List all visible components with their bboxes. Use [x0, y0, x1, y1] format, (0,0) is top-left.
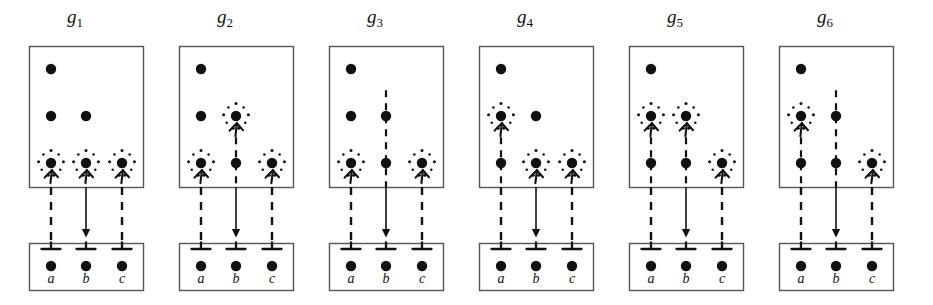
graph-node: [831, 111, 841, 121]
terminal-dot: [81, 261, 91, 271]
node-dot: [681, 158, 691, 168]
node-dot-highlighted: [867, 158, 877, 168]
node-dot-highlighted: [496, 111, 506, 121]
node-dot-highlighted: [231, 111, 241, 121]
panel-g6: g6abc: [750, 0, 900, 305]
node-dot: [381, 111, 391, 121]
graph-node: [796, 64, 806, 74]
up-arrow-icon: [195, 170, 208, 183]
graph-node: [81, 111, 91, 121]
node-dot-highlighted: [646, 111, 656, 121]
terminal-label-a: a: [48, 271, 55, 286]
terminal-label-c: c: [269, 271, 276, 286]
terminal-label-b: b: [383, 271, 390, 286]
up-arrow-icon: [680, 123, 693, 136]
node-dot: [831, 158, 841, 168]
node-dot: [796, 64, 806, 74]
terminal-dot: [496, 261, 506, 271]
node-dot-highlighted: [796, 111, 806, 121]
node-dot: [231, 158, 241, 168]
graph-node: [796, 158, 806, 168]
node-dot-highlighted: [681, 111, 691, 121]
terminal-label-c: c: [119, 271, 126, 286]
terminal-dot: [346, 261, 356, 271]
node-dot: [346, 64, 356, 74]
up-arrow-icon: [795, 123, 808, 136]
terminal-label-b: b: [533, 271, 540, 286]
panel-graphic-g6: abc: [750, 0, 900, 305]
graph-node: [381, 111, 391, 121]
panel-g4: g4abc: [450, 0, 600, 305]
graph-node: [496, 158, 506, 168]
graph-node: [196, 64, 206, 74]
solid-arrow-connector: [832, 187, 840, 238]
panel-graphic-g3: abc: [300, 0, 450, 305]
graph-node: [646, 158, 656, 168]
up-arrow-icon: [266, 170, 279, 183]
terminal-dot: [681, 261, 691, 271]
up-arrow-icon: [716, 170, 729, 183]
node-dot-highlighted: [81, 158, 91, 168]
up-arrow-icon: [345, 170, 358, 183]
terminal-dot: [531, 261, 541, 271]
terminal-dot: [381, 261, 391, 271]
terminal-dot: [567, 261, 577, 271]
panel-graphic-g4: abc: [450, 0, 600, 305]
graph-node: [108, 149, 136, 183]
graph-node: [187, 149, 215, 183]
node-dot-highlighted: [117, 158, 127, 168]
terminal-dot: [646, 261, 656, 271]
graph-node: [681, 158, 691, 168]
terminal-dot: [231, 261, 241, 271]
terminal-dot: [46, 261, 56, 271]
graph-node: [72, 149, 100, 183]
up-arrow-icon: [416, 170, 429, 183]
terminal-label-c: c: [569, 271, 576, 286]
node-dot: [646, 158, 656, 168]
graph-node: [672, 102, 700, 136]
terminal-label-c: c: [419, 271, 426, 286]
graph-node: [558, 149, 586, 183]
solid-arrow-connector: [382, 187, 390, 238]
solid-arrow-connector: [682, 187, 690, 238]
panel-g5: g5abc: [600, 0, 750, 305]
parse-forest-figure: g1abcg2abcg3abcg4abcg5abcg6abc: [0, 0, 933, 305]
panel-g3: g3abc: [300, 0, 450, 305]
terminal-label-b: b: [683, 271, 690, 286]
graph-node: [381, 158, 391, 168]
graph-node: [531, 111, 541, 121]
terminal-dot: [867, 261, 877, 271]
node-dot-highlighted: [267, 158, 277, 168]
terminal-label-b: b: [233, 271, 240, 286]
up-arrow-icon: [230, 123, 243, 136]
up-arrow-icon: [495, 123, 508, 136]
node-dot: [646, 64, 656, 74]
graph-node: [37, 149, 65, 183]
node-dot: [46, 64, 56, 74]
terminal-dot: [717, 261, 727, 271]
terminal-label-c: c: [719, 271, 726, 286]
up-arrow-icon: [566, 170, 579, 183]
node-dot: [531, 111, 541, 121]
solid-arrow-connector: [532, 187, 540, 238]
graph-node: [496, 64, 506, 74]
terminal-dot: [417, 261, 427, 271]
graph-node: [646, 64, 656, 74]
terminal-label-a: a: [198, 271, 205, 286]
graph-node: [258, 149, 286, 183]
graph-node: [346, 111, 356, 121]
graph-node: [522, 149, 550, 183]
node-dot: [81, 111, 91, 121]
terminal-label-b: b: [83, 271, 90, 286]
terminal-dot: [117, 261, 127, 271]
up-arrow-icon: [866, 170, 879, 183]
graph-node: [487, 102, 515, 136]
up-arrow-icon: [645, 123, 658, 136]
node-dot: [46, 111, 56, 121]
panel-g2: g2abc: [150, 0, 300, 305]
terminal-dot: [196, 261, 206, 271]
node-dot: [196, 111, 206, 121]
terminal-label-a: a: [648, 271, 655, 286]
up-arrow-icon: [530, 170, 543, 183]
node-dot: [196, 64, 206, 74]
